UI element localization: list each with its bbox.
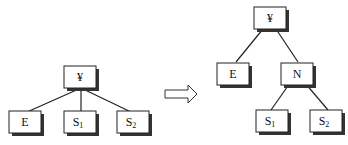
right-node-n: N: [281, 63, 316, 88]
left-node-s1: S1: [64, 111, 99, 136]
left-root-node: ¥: [64, 66, 99, 91]
right-node-s1: S1: [256, 110, 291, 135]
right-node-s2: S2: [310, 110, 345, 135]
tree-transformation-diagram: ¥ E S1 S2 ¥ E N: [0, 0, 348, 145]
edge-root-e: [27, 88, 81, 112]
left-root-label: ¥: [77, 70, 83, 84]
right-root-label: ¥: [267, 11, 273, 25]
edge-root-e-right: [236, 29, 263, 62]
left-node-e: E: [9, 111, 44, 136]
right-root-node: ¥: [254, 7, 289, 32]
svg-text:N: N: [293, 67, 302, 81]
svg-text:E: E: [229, 67, 236, 81]
transform-arrow-icon: [165, 85, 197, 103]
svg-text:E: E: [21, 115, 28, 129]
edge-root-n: [276, 29, 298, 62]
right-node-e: E: [217, 63, 252, 88]
left-node-s2: S2: [117, 111, 152, 136]
edge-root-s2: [81, 88, 131, 112]
